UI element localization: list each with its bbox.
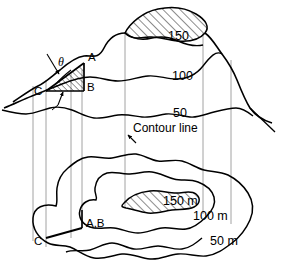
block-contour-50 [2, 107, 253, 118]
block-point-label-b: B [87, 82, 95, 94]
block-contour-label-150: 150 [168, 30, 189, 43]
block-point-label-c: C [34, 86, 42, 98]
block-contour-label-50: 50 [173, 107, 187, 120]
map-point-label-c: C [34, 236, 42, 248]
geology-block-and-contour-diagram [0, 0, 284, 276]
map-contour-label-150m: 150 m [163, 195, 198, 208]
summit-hatch-region [125, 8, 207, 42]
angle-theta-label: θ [58, 56, 64, 68]
map-contour-label-50m: 50 m [210, 235, 238, 248]
block-right-edge [250, 108, 275, 132]
dip-angle-arrow [58, 92, 63, 105]
map-contour-50-inner-wiggle [66, 238, 202, 252]
contour-line-leader [128, 135, 136, 143]
block-diagram [2, 8, 275, 132]
figure-container: 150 100 50 A B C θ Contour line 150 m 10… [0, 0, 284, 276]
block-contour-label-100: 100 [172, 70, 193, 83]
block-point-label-a: A [88, 52, 96, 64]
contour-line-annotation: Contour line [133, 122, 198, 134]
map-baseline-c-ab [46, 228, 82, 238]
map-point-label-ab: A,B [86, 218, 105, 230]
map-contour-label-100m: 100 m [193, 210, 228, 223]
hill-right-skyline [205, 33, 272, 123]
